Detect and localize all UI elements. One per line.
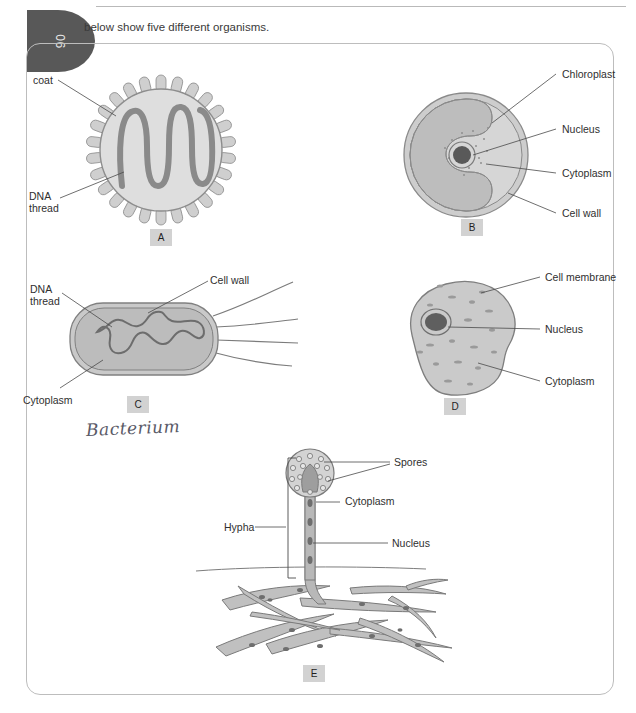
label-spores: Spores	[394, 456, 427, 468]
figure-e-fungus-drawing	[0, 0, 636, 713]
label-cytoplasm-e: Cytoplasm	[345, 495, 395, 507]
figure-tag-e: E	[303, 665, 325, 682]
label-hypha: Hypha	[224, 521, 254, 533]
label-nucleus-e: Nucleus	[392, 537, 430, 549]
leader-spores-2	[328, 464, 390, 481]
mycelium-e	[216, 579, 452, 662]
